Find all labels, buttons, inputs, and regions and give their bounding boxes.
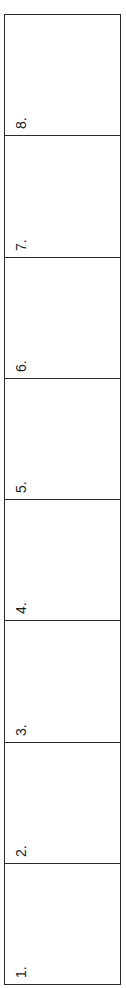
box-8[interactable]: 8. [5, 15, 120, 135]
box-label: 7. [14, 239, 28, 251]
box-label: 1. [14, 966, 28, 978]
numbered-box-column: 8. 7. 6. 5. 4. 3. 2. 1. [4, 14, 121, 985]
box-label: 3. [14, 724, 28, 736]
box-label: 4. [14, 603, 28, 615]
box-5[interactable]: 5. [5, 378, 120, 499]
box-label: 6. [14, 360, 28, 372]
box-7[interactable]: 7. [5, 135, 120, 256]
box-label: 2. [14, 845, 28, 857]
box-label: 8. [14, 118, 28, 130]
box-3[interactable]: 3. [5, 620, 120, 741]
box-4[interactable]: 4. [5, 499, 120, 620]
box-6[interactable]: 6. [5, 257, 120, 378]
box-label: 5. [14, 481, 28, 493]
box-1[interactable]: 1. [5, 863, 120, 984]
box-2[interactable]: 2. [5, 742, 120, 863]
